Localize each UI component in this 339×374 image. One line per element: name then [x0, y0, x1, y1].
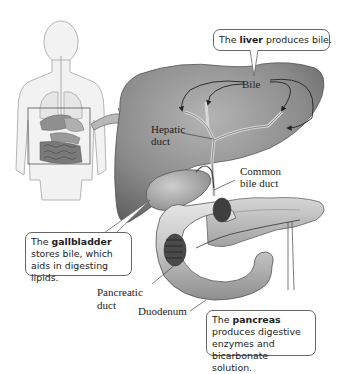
callout-pancreas: The pancreas produces digestive enzymes …	[206, 310, 316, 356]
callout-pancreas-prefix: The	[212, 314, 232, 325]
callout-gallbladder: The gallbladder stores bile, which aids …	[25, 232, 132, 276]
callout-pancreas-suffix: produces digestive enzymes and bicarbona…	[212, 326, 301, 373]
callout-pancreas-term: pancreas	[232, 314, 280, 325]
callout-gallbladder-term: gallbladder	[51, 236, 111, 247]
callout-gallbladder-prefix: The	[31, 236, 51, 247]
